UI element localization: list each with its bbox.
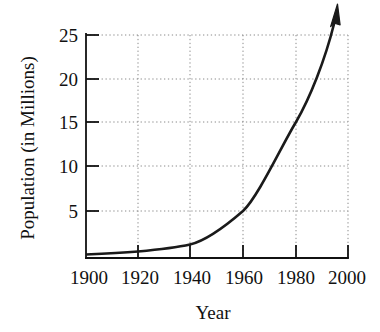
y-tick-labels: 25 20 15 10 5: [59, 25, 78, 222]
x-tick-label-1920: 1920: [121, 267, 159, 288]
y-axis-title: Population (in Millions): [17, 56, 39, 240]
population-curve: [86, 24, 334, 255]
grid-lines: [86, 35, 348, 258]
y-tick-label-25: 25: [59, 25, 78, 46]
x-tick-label-1940: 1940: [173, 267, 211, 288]
x-tick-label-1900: 1900: [70, 267, 108, 288]
y-tick-marks: [86, 35, 99, 211]
y-tick-label-20: 20: [59, 69, 78, 90]
chart-figure: 25 20 15 10 5 1900 1920 1940 1960 1980 2…: [0, 0, 380, 332]
y-tick-label-15: 15: [59, 112, 78, 133]
x-tick-label-2000: 2000: [328, 267, 366, 288]
data-series-group: [86, 4, 340, 255]
curve-arrowhead-icon: [331, 4, 341, 27]
x-tick-label-1960: 1960: [225, 267, 263, 288]
x-tick-labels: 1900 1920 1940 1960 1980 2000: [70, 267, 366, 288]
y-tick-label-10: 10: [59, 156, 78, 177]
x-tick-label-1980: 1980: [277, 267, 315, 288]
y-tick-label-5: 5: [69, 201, 79, 222]
x-axis-title: Year: [195, 302, 231, 323]
axis-lines: [86, 34, 348, 258]
population-growth-chart: 25 20 15 10 5 1900 1920 1940 1960 1980 2…: [0, 0, 380, 332]
